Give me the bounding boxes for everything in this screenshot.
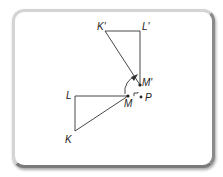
right-angle-mark bbox=[134, 92, 138, 96]
rotation-diagram: K' L' M' L M P K bbox=[0, 0, 223, 177]
label-k-prime: K' bbox=[97, 21, 107, 32]
label-k: K bbox=[65, 134, 73, 145]
label-l: L bbox=[66, 90, 72, 101]
triangle-klm bbox=[75, 96, 128, 131]
label-m: M bbox=[124, 98, 133, 109]
point-p bbox=[140, 96, 143, 99]
label-p: P bbox=[145, 92, 152, 103]
label-l-prime: L' bbox=[142, 21, 151, 32]
label-m-prime: M' bbox=[142, 77, 153, 88]
